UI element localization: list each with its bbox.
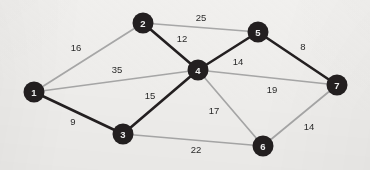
edge-weight-label-1-3: 9: [70, 116, 75, 127]
graph-node-6[interactable]: 6: [253, 136, 274, 157]
graph-node-2[interactable]: 2: [133, 13, 154, 34]
edge-weight-label-4-5: 14: [233, 56, 244, 67]
node-label-2: 2: [140, 18, 145, 29]
graph-edge-2-5: [143, 23, 258, 32]
graph-edge-3-4: [123, 70, 198, 134]
edge-weight-label-1-2: 16: [71, 42, 82, 53]
graph-edge-2-4: [143, 23, 198, 70]
edge-weight-label-2-4: 12: [177, 33, 188, 44]
edge-weight-label-6-7: 14: [304, 121, 315, 132]
node-label-6: 6: [260, 141, 265, 152]
edge-weight-label-4-7: 19: [267, 84, 278, 95]
edge-weight-label-3-6: 22: [191, 144, 202, 155]
edge-weight-label-3-4: 15: [145, 90, 156, 101]
node-label-5: 5: [255, 27, 261, 38]
node-label-4: 4: [195, 65, 201, 76]
graph-edge-1-2: [34, 23, 143, 92]
node-label-1: 1: [31, 87, 37, 98]
node-label-7: 7: [334, 80, 339, 91]
node-label-3: 3: [120, 129, 125, 140]
graph-edge-1-3: [34, 92, 123, 134]
graph-node-5[interactable]: 5: [248, 22, 269, 43]
graph-node-1[interactable]: 1: [24, 82, 45, 103]
graph-node-4[interactable]: 4: [188, 60, 209, 81]
graph-node-3[interactable]: 3: [113, 124, 134, 145]
graph-node-7[interactable]: 7: [327, 75, 348, 96]
edge-weight-label-4-6: 17: [209, 105, 220, 116]
edge-weight-label-1-4: 35: [112, 64, 123, 75]
edge-weight-label-5-7: 8: [300, 41, 305, 52]
graph-figure: 1635925121522141917814 1234567: [0, 0, 370, 170]
graph-canvas: 1635925121522141917814 1234567: [0, 0, 370, 170]
edge-weight-label-2-5: 25: [196, 12, 207, 23]
graph-edge-4-5: [198, 32, 258, 70]
